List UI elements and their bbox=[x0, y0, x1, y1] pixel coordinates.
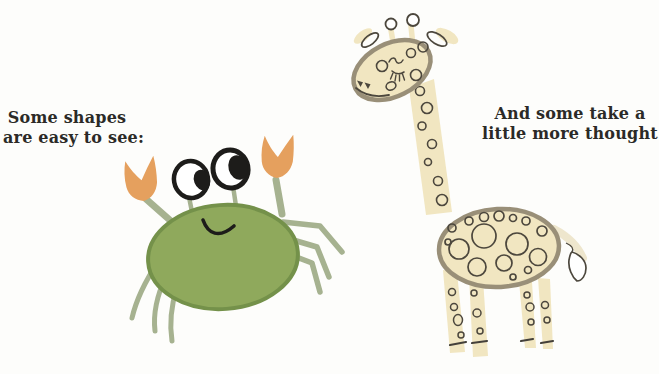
giraffe-hoof-lines bbox=[450, 339, 553, 345]
crab-right-claw bbox=[261, 134, 294, 178]
giraffe-right-ossicone bbox=[407, 14, 419, 26]
crab-right-eye bbox=[210, 147, 251, 191]
illustrations bbox=[0, 0, 659, 374]
book-page: Some shapes are easy to see: And some ta… bbox=[0, 0, 659, 374]
giraffe-left-ossicone bbox=[386, 19, 397, 30]
giraffe-illustration bbox=[343, 14, 586, 357]
crab-illustration bbox=[122, 134, 342, 341]
giraffe-neck bbox=[409, 79, 452, 215]
giraffe-left-ear-back bbox=[351, 25, 374, 46]
crab-left-claw bbox=[122, 156, 160, 204]
crab-right-arm bbox=[276, 180, 282, 214]
crab-left-arm bbox=[146, 199, 172, 222]
giraffe-body bbox=[437, 206, 561, 290]
crab-left-eye bbox=[171, 158, 213, 200]
